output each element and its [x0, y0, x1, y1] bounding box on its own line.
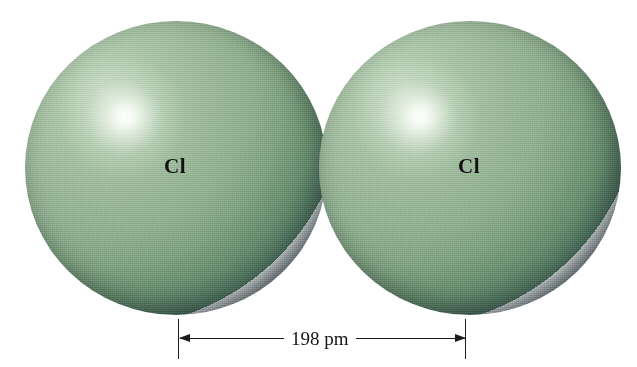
dimension-arrow-right-icon: [455, 334, 466, 342]
atom-label-right: Cl: [458, 156, 480, 177]
atom-label-left: Cl: [164, 156, 186, 177]
sphere-highlight-icon: [87, 79, 167, 153]
sphere-highlight-icon: [381, 79, 461, 153]
dimension-arrow-left-icon: [179, 334, 190, 342]
molecule-figure: Cl Cl 198 pm: [0, 0, 637, 367]
dimension-label: 198 pm: [284, 329, 356, 348]
